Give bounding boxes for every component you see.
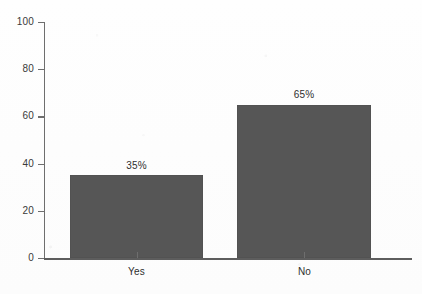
y-tick-label-40: 40	[0, 159, 34, 169]
y-tick-mark-60	[38, 116, 44, 117]
y-tick-label-60: 60	[0, 111, 34, 121]
y-tick-label-20: 20	[0, 206, 34, 216]
y-tick-mark-20	[38, 211, 44, 212]
plot-area: 100 80 60 40 20 0 35% 65% Yes No	[0, 0, 422, 294]
x-tick-mark-no	[304, 252, 305, 258]
x-axis-line	[44, 258, 412, 260]
y-tick-mark-40	[38, 164, 44, 165]
bar-value-yes: 35%	[70, 160, 203, 171]
y-tick-label-0: 0	[0, 253, 34, 263]
y-tick-mark-80	[38, 69, 44, 70]
y-tick-mark-100	[38, 22, 44, 23]
y-axis-line	[44, 22, 45, 259]
bar-chart: 100 80 60 40 20 0 35% 65% Yes No	[0, 0, 422, 294]
y-tick-label-100: 100	[0, 17, 34, 27]
x-tick-mark-yes	[137, 252, 138, 258]
bar-value-no: 65%	[237, 89, 371, 100]
bar-no	[237, 105, 371, 258]
y-tick-mark-0	[38, 258, 44, 259]
bar-yes	[70, 175, 203, 258]
x-tick-label-no: No	[264, 266, 345, 277]
x-tick-label-yes: Yes	[96, 266, 177, 277]
y-tick-label-80: 80	[0, 64, 34, 74]
